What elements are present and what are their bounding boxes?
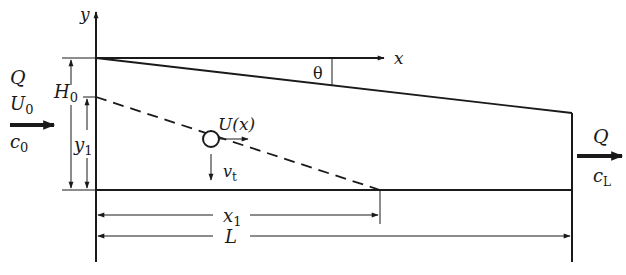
inlet-velocity-label: U0 (10, 93, 33, 117)
x-axis-label: x (394, 48, 404, 68)
inlet-conc-label: c0 (10, 131, 28, 155)
theta-label: θ (313, 64, 323, 83)
outlet-conc-label: cL (593, 165, 611, 189)
y-axis-label: y (79, 4, 90, 24)
h0-label: H0 (53, 81, 78, 105)
y1-label: y1 (73, 134, 92, 158)
settling-basin-diagram: y x θ H0 y1 Q U0 c0 U(x) vt Q cL x1 L (0, 0, 626, 275)
settling-velocity-label: vt (223, 162, 237, 184)
particle (203, 131, 219, 147)
outlet-flow-label: Q (593, 125, 609, 147)
length-label: L (224, 226, 237, 247)
particle-trajectory (96, 97, 380, 190)
particle-velocity-label: U(x) (218, 114, 255, 134)
sloped-top-surface (96, 58, 572, 113)
inlet-flow-label: Q (10, 66, 26, 88)
